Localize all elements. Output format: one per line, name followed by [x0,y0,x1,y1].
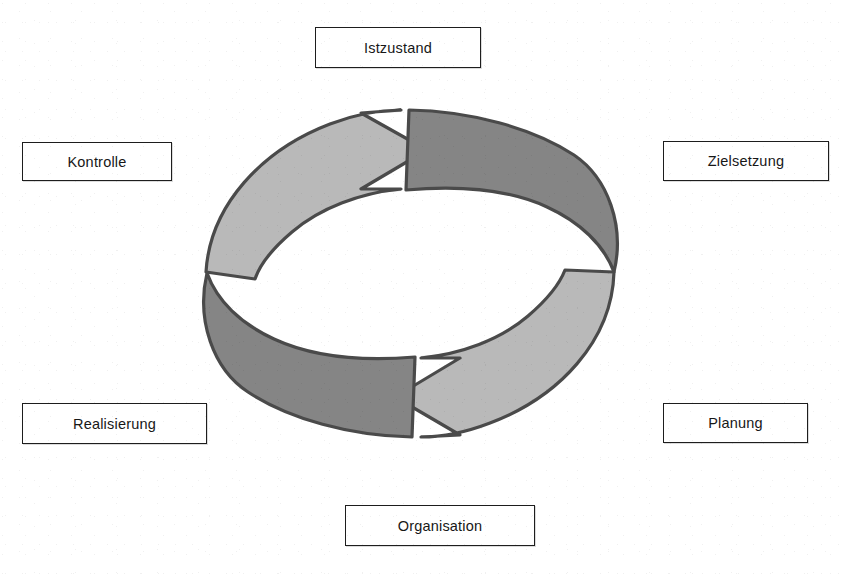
label-box-planung[interactable]: Planung [663,403,808,443]
label-box-zielsetzung[interactable]: Zielsetzung [663,141,829,181]
label-text-kontrolle: Kontrolle [67,154,126,170]
label-text-organisation: Organisation [398,518,483,534]
cycle-ring-graphic [0,0,845,577]
lower-arrow-dark-band [204,273,415,437]
upper-arrow-dark-band [406,110,617,272]
label-box-istzustand[interactable]: Istzustand [315,27,481,68]
label-text-istzustand: Istzustand [364,40,432,56]
label-text-planung: Planung [708,415,763,431]
label-text-realisierung: Realisierung [73,416,156,432]
lower-arrow [395,270,614,437]
label-box-realisierung[interactable]: Realisierung [22,403,207,444]
upper-arrow [206,110,427,279]
label-box-kontrolle[interactable]: Kontrolle [22,142,172,181]
label-box-organisation[interactable]: Organisation [345,505,535,546]
label-text-zielsetzung: Zielsetzung [708,153,784,169]
diagram-canvas: Istzustand Zielsetzung Planung Organisat… [0,0,845,577]
